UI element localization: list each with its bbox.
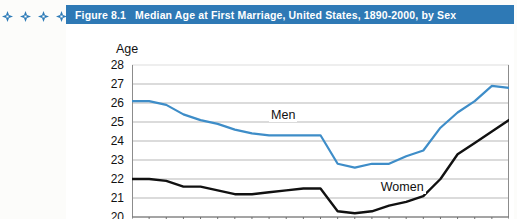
figure-card: Figure 8.1 Median Age at First Marriage,… [66,5,514,219]
series-label-women: Women [379,180,426,194]
diamond-flower-ornament [2,11,13,22]
figure-number: Figure 8.1 [75,9,126,21]
y-axis-tick-label: 26 [102,96,124,110]
y-axis-tick-label: 21 [102,191,124,205]
y-axis-tick-label: 22 [102,172,124,186]
y-axis-tick-label: 25 [102,115,124,129]
series-line-men [132,86,509,168]
series-label-men: Men [269,108,297,122]
diamond-flower-ornament [38,11,49,22]
y-axis-tick-label: 27 [102,77,124,91]
figure-title: Median Age at First Marriage, United Sta… [135,9,456,21]
figure-page: Figure 8.1 Median Age at First Marriage,… [0,0,517,219]
y-axis-tick-label: 23 [102,153,124,167]
series-line-women [132,120,509,213]
y-axis-tick-label: 20 [102,210,124,219]
y-axis-tick-label: 24 [102,134,124,148]
y-axis-tick-labels: 282726252423222120 [102,24,124,219]
figure-body: Age 282726252423222120 MenWomen [66,24,514,219]
chart-plot-area: MenWomen [132,24,509,219]
y-axis-tick-label: 28 [102,58,124,72]
figure-header: Figure 8.1 Median Age at First Marriage,… [66,5,514,24]
diamond-flower-ornament [20,11,31,22]
decorative-ornaments [0,6,68,26]
